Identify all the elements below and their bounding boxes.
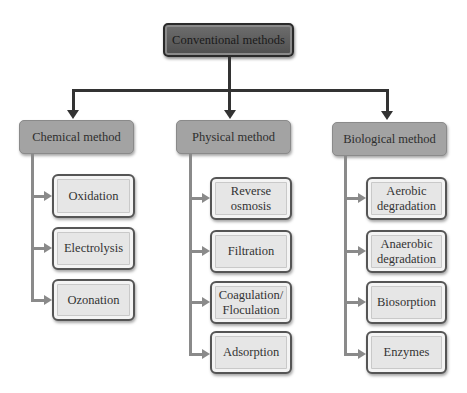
category-node-physical: Physical method (176, 120, 291, 154)
leaf-node-biosorption: Biosorption (366, 281, 447, 324)
leaf-label: Electrolysis (64, 241, 123, 256)
leaf-label: Reverse osmosis (231, 184, 271, 214)
branch-connector (344, 197, 359, 200)
category-node-biological: Biological method (332, 122, 447, 156)
arrow-right-icon (44, 243, 52, 253)
leaf-label: Enzymes (384, 345, 430, 360)
branch-connector (344, 301, 359, 304)
leaf-node-reverse-osmosis: Reverse osmosis (210, 177, 292, 220)
arrow-right-icon (202, 246, 210, 256)
leaf-node-oxidation: Oxidation (52, 174, 135, 218)
arrow-right-icon (358, 246, 366, 256)
branch-line-biological (344, 155, 347, 356)
arrow-right-icon (202, 193, 210, 203)
arrow-right-icon (358, 297, 366, 307)
leaf-node-coagulation-floculation: Coagulation/ Floculation (210, 281, 292, 324)
horizontal-bus-connector (72, 89, 388, 92)
branch-connector (189, 301, 203, 304)
arrow-right-icon (44, 295, 52, 305)
arrow-right-icon (202, 297, 210, 307)
drop-connector-chemical (72, 89, 75, 110)
leaf-label: Aerobic degradation (377, 184, 436, 214)
category-label: Biological method (343, 132, 436, 147)
leaf-label: Adsorption (223, 345, 279, 360)
arrow-right-icon (358, 193, 366, 203)
branch-line-chemical (31, 153, 34, 301)
arrow-right-icon (202, 349, 210, 359)
root-node-label: Conventional methods (172, 33, 285, 48)
drop-connector-biological (386, 89, 389, 111)
branch-connector (31, 195, 45, 198)
category-label: Chemical method (32, 130, 121, 145)
branch-connector (189, 197, 203, 200)
arrow-down-icon (381, 111, 393, 120)
arrow-right-icon (358, 349, 366, 359)
branch-connector (31, 299, 45, 302)
arrow-right-icon (44, 191, 52, 201)
branch-line-physical (189, 153, 192, 356)
category-node-chemical: Chemical method (19, 120, 134, 154)
leaf-label: Oxidation (69, 189, 119, 204)
branch-connector (189, 353, 203, 356)
root-stem-connector (228, 57, 231, 111)
branch-connector (344, 353, 359, 356)
leaf-node-enzymes: Enzymes (366, 331, 447, 374)
arrow-down-icon (224, 110, 236, 119)
leaf-label: Coagulation/ Floculation (219, 288, 284, 318)
leaf-node-aerobic-degradation: Aerobic degradation (366, 177, 447, 220)
leaf-label: Anaerobic degradation (377, 237, 436, 267)
leaf-node-ozonation: Ozonation (52, 279, 135, 321)
branch-connector (189, 250, 203, 253)
category-label: Physical method (192, 130, 275, 145)
root-node-conventional-methods: Conventional methods (163, 23, 294, 57)
branch-connector (344, 250, 359, 253)
leaf-label: Filtration (228, 244, 275, 259)
leaf-label: Ozonation (67, 293, 119, 308)
leaf-node-filtration: Filtration (210, 230, 292, 273)
leaf-node-anaerobic-degradation: Anaerobic degradation (366, 230, 447, 273)
leaf-label: Biosorption (377, 295, 436, 310)
leaf-node-electrolysis: Electrolysis (52, 227, 135, 270)
arrow-down-icon (67, 110, 79, 119)
leaf-node-adsorption: Adsorption (210, 331, 292, 374)
branch-connector (31, 247, 45, 250)
